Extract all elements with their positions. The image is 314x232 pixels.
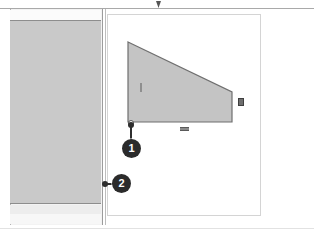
screenshot-root: 1 2 [0,0,314,232]
trapezoid-wedge-shape[interactable] [128,42,238,126]
panel-divider [105,9,106,225]
panel-bottom-band-secondary [10,214,101,224]
panel-top-band [10,10,101,20]
top-center-marker-icon[interactable] [156,1,161,8]
bottom-horizontal-rule [0,228,314,229]
edge-handle-left-icon[interactable] [140,83,142,92]
callout-badge-1[interactable]: 1 [122,139,141,158]
trapezoid-polygon [128,42,232,122]
callout-badge-2[interactable]: 2 [112,174,131,193]
panel-core-fill[interactable] [10,20,101,204]
edge-handle-right-icon[interactable] [238,98,244,106]
edge-handle-bottom-icon[interactable] [180,127,189,131]
panel-bottom-band [10,205,101,214]
